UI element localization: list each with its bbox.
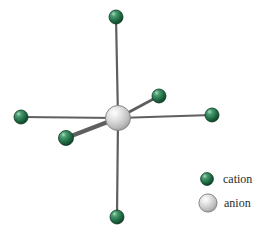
- legend: cation anion: [198, 172, 266, 226]
- legend-item-anion: anion: [198, 193, 251, 213]
- cation-left: [14, 110, 28, 124]
- figure-canvas: cation anion: [0, 0, 267, 234]
- cation-right: [205, 108, 219, 122]
- cation-lower-left: [59, 131, 74, 146]
- anion-sphere-icon: [198, 193, 218, 213]
- bond-bottom: [117, 118, 118, 217]
- bond-top: [116, 17, 118, 118]
- bond-left: [21, 117, 118, 118]
- cation-sphere-icon: [200, 172, 214, 186]
- bond-right: [118, 115, 212, 118]
- cation-bottom: [110, 210, 124, 224]
- cation-top: [109, 10, 123, 24]
- legend-label-anion: anion: [224, 197, 251, 209]
- cation-upper-right: [152, 89, 166, 103]
- legend-item-cation: cation: [200, 172, 252, 186]
- legend-label-cation: cation: [223, 173, 252, 185]
- anion-center: [106, 106, 131, 131]
